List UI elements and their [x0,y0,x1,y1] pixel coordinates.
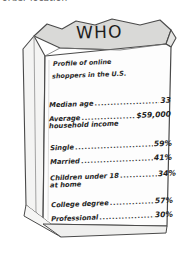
bag-bottom-edge-shadow [43,224,167,237]
bag-front-panel [43,44,171,226]
paper-bag-illustration [0,0,183,255]
